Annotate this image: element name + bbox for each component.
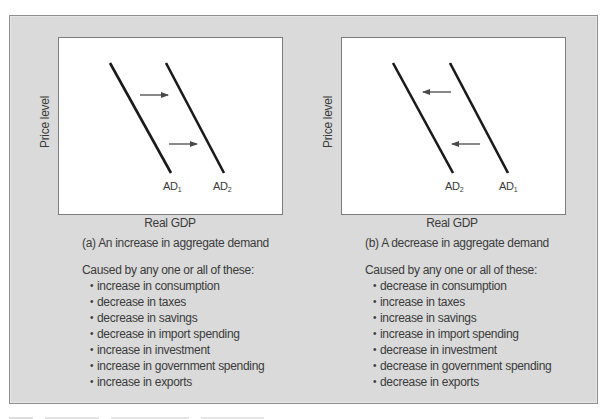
bullet-icon: • (373, 278, 376, 294)
list-item: •decrease in savings (90, 310, 264, 326)
list-item: •increase in savings (373, 310, 552, 326)
cause-text: decrease in taxes (97, 295, 186, 309)
curve-label-subscript: 2 (460, 186, 464, 193)
cause-text: decrease in consumption (380, 279, 507, 293)
bullet-icon: • (90, 374, 93, 390)
bullet-icon: • (373, 326, 376, 342)
bullet-icon: • (90, 326, 93, 342)
list-item: •decrease in exports (373, 374, 552, 390)
bullet-icon: • (373, 310, 376, 326)
curve-label-ad1-a: AD1 (163, 180, 181, 193)
cause-text: decrease in government spending (380, 359, 552, 373)
bullet-icon: • (90, 342, 93, 358)
list-item: •increase in taxes (373, 294, 552, 310)
cause-text: decrease in savings (97, 311, 197, 325)
bullet-icon: • (373, 294, 376, 310)
list-item: •decrease in consumption (373, 278, 552, 294)
x-axis-label-a: Real GDP (110, 216, 230, 230)
cause-text: decrease in exports (380, 375, 479, 389)
curve-label-ad2-a: AD2 (213, 180, 231, 193)
caption-b: (b) A decrease in aggregate demand (365, 236, 549, 250)
causes-list-b: Caused by any one or all of these: •decr… (365, 262, 552, 390)
cause-text: increase in savings (380, 311, 476, 325)
curve-label-subscript: 1 (178, 186, 182, 193)
y-axis-label-b: Price level (321, 92, 335, 152)
cause-text: increase in investment (97, 343, 210, 357)
list-item: •decrease in government spending (373, 358, 552, 374)
list-item: •decrease in taxes (90, 294, 264, 310)
bullet-icon: • (90, 358, 93, 374)
cause-text: increase in exports (97, 375, 192, 389)
bullet-icon: • (373, 342, 376, 358)
causes-heading-a: Caused by any one or all of these: (82, 262, 264, 278)
bullet-icon: • (90, 278, 93, 294)
cause-text: decrease in investment (380, 343, 497, 357)
cause-text: increase in government spending (97, 359, 264, 373)
bullet-icon: • (90, 310, 93, 326)
curve-label-subscript: 1 (514, 186, 518, 193)
cause-text: increase in consumption (97, 279, 220, 293)
list-item: •increase in investment (90, 342, 264, 358)
curve-label-ad2-b: AD2 (445, 180, 463, 193)
caption-a: (a) An increase in aggregate demand (82, 236, 269, 250)
list-item: •decrease in investment (373, 342, 552, 358)
bullet-icon: • (373, 374, 376, 390)
curve-label-base: AD (213, 180, 228, 192)
curve-label-ad1-b: AD1 (499, 180, 517, 193)
cause-text: decrease in import spending (97, 327, 240, 341)
bullet-icon: • (373, 358, 376, 374)
curve-label-base: AD (445, 180, 460, 192)
curve-label-base: AD (499, 180, 514, 192)
curve-label-subscript: 2 (228, 186, 232, 193)
cause-text: increase in import spending (380, 327, 519, 341)
list-item: •increase in consumption (90, 278, 264, 294)
cause-text: increase in taxes (380, 295, 465, 309)
curve-label-base: AD (163, 180, 178, 192)
list-item: •increase in exports (90, 374, 264, 390)
cropped-figure-caption (9, 414, 309, 419)
list-item: •decrease in import spending (90, 326, 264, 342)
bullet-icon: • (90, 294, 93, 310)
list-item: •increase in government spending (90, 358, 264, 374)
x-axis-label-b: Real GDP (392, 216, 512, 230)
causes-heading-b: Caused by any one or all of these: (365, 262, 552, 278)
list-item: •increase in import spending (373, 326, 552, 342)
causes-list-a: Caused by any one or all of these: •incr… (82, 262, 264, 390)
y-axis-label-a: Price level (38, 92, 52, 152)
